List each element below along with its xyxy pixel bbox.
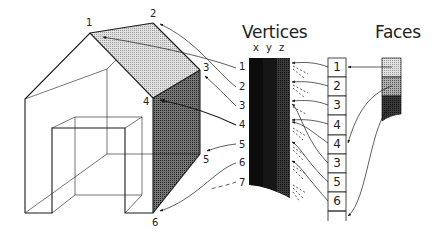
face-3-cell xyxy=(382,96,401,121)
face-index-cell: 6 xyxy=(328,195,346,207)
axis-z-label: z xyxy=(279,43,284,53)
house-model xyxy=(25,23,200,213)
house-vertex-label: 3 xyxy=(203,63,209,73)
face-index-cell: 2 xyxy=(328,80,346,92)
face-index-cell: 3 xyxy=(328,99,346,111)
vertex-row-label: 5 xyxy=(239,140,245,150)
face-index-cell: 3 xyxy=(328,157,346,169)
face-1-cell xyxy=(382,58,401,77)
vertex-row-label: 6 xyxy=(239,158,245,168)
axis-y-label: y xyxy=(266,43,272,53)
house-vertex-label: 4 xyxy=(143,97,149,107)
vertex-row-label: 2 xyxy=(239,82,245,92)
vertices-table xyxy=(249,58,290,198)
diagram-graphics xyxy=(0,0,432,240)
axis-x-label: x xyxy=(253,43,259,53)
house-vertex-label: 6 xyxy=(152,218,158,228)
house-vertex-label: 2 xyxy=(150,9,156,19)
vertex-row-label: 1 xyxy=(239,62,245,72)
house-vertex-label: 1 xyxy=(86,18,92,28)
face-index-cell: 5 xyxy=(328,176,346,188)
vertex-face-diagram: Vertices Faces x y z 1 2 3 4 5 6 1 2 3 4… xyxy=(0,0,432,240)
index-to-vertex-curves xyxy=(292,62,328,202)
face-index-cell: 4 xyxy=(328,138,346,150)
face-index-cell: 1 xyxy=(328,61,346,73)
vertex-row-label: 3 xyxy=(239,101,245,111)
faces-title: Faces xyxy=(375,24,421,41)
vertex-row-label: 4 xyxy=(239,120,245,130)
vertices-title: Vertices xyxy=(242,24,307,41)
house-vertex-label: 5 xyxy=(203,155,209,165)
vertex-row-label: 7 xyxy=(239,178,245,188)
face-index-cell: 4 xyxy=(328,119,346,131)
faces-table xyxy=(382,58,401,121)
